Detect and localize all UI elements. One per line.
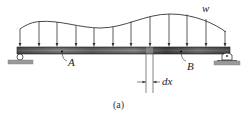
right-roller-support [214,53,240,65]
point-a-marker [61,50,63,52]
beam [17,47,230,54]
load-arrows [20,14,225,45]
point-b-label: B [187,61,194,72]
left-pin-support [8,54,33,64]
dx-arrowheads [143,81,157,83]
arrowheads [19,43,227,47]
beam-diagram: w A B dx (a) [0,0,244,119]
figure-caption: (a) [113,100,124,110]
point-a-label: A [68,57,75,68]
dx-dimension [137,54,160,93]
dx-label: dx [162,76,172,87]
load-label-w: w [202,3,209,14]
point-b-marker [180,50,182,52]
load-curve [20,14,226,32]
